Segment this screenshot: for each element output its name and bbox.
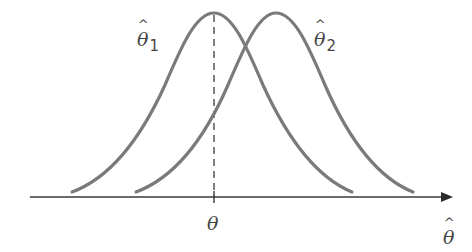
true-value-symbol: θ: [207, 212, 218, 234]
estimator-2-symbol: θ: [314, 30, 325, 49]
estimator-distributions-diagram: [0, 0, 472, 252]
estimator-1-label: θ1: [137, 30, 159, 49]
estimator-2-subscript: 2: [326, 37, 336, 55]
estimator-1-curve: [72, 13, 352, 192]
x-axis-label: θ: [443, 228, 454, 247]
true-value-label: θ: [207, 214, 218, 233]
estimator-1-subscript: 1: [149, 37, 159, 55]
estimator-2-curve: [136, 13, 413, 192]
estimator-2-label: θ2: [314, 30, 336, 49]
x-axis-symbol: θ: [443, 228, 454, 247]
x-axis-arrow-icon: [441, 192, 453, 202]
estimator-1-symbol: θ: [137, 30, 148, 49]
